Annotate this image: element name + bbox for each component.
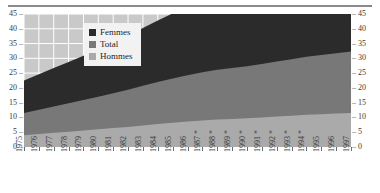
legend-label: Total xyxy=(100,40,118,49)
y-tick-left-40: 40 – xyxy=(9,25,23,33)
y-tick-right-30: – 30 xyxy=(352,54,366,62)
y-tick-right-45: – 45 xyxy=(352,10,366,18)
x-tick-label: 1980 xyxy=(89,136,98,152)
y-tick-left-30: 30 – xyxy=(9,54,23,62)
legend-swatch-icon xyxy=(89,29,96,36)
x-tick-label: 1993 * xyxy=(283,130,292,152)
x-tick-label: 1991 * xyxy=(253,130,262,152)
y-tick-right-5: – 5 xyxy=(352,128,362,136)
legend-label: Femmes xyxy=(100,28,131,37)
x-tick-label: 1997 xyxy=(342,136,351,152)
x-axis: 1975197619771978197919801981198219831984… xyxy=(24,147,351,193)
x-tickmark xyxy=(306,147,307,151)
x-tick-label: 1981 xyxy=(104,136,113,152)
x-tickmark xyxy=(336,147,337,151)
x-tickmark xyxy=(247,147,248,151)
x-tick-label: 1995 xyxy=(312,136,321,152)
x-tick-label: 1978 xyxy=(60,136,69,152)
x-tickmark xyxy=(202,147,203,151)
x-tick-label: 1984 xyxy=(149,136,158,152)
y-axis-right: – 0– 5– 10– 15– 20– 25– 30– 35– 40– 45 xyxy=(351,14,380,147)
y-tick-left-10: 10 – xyxy=(9,113,23,121)
x-tick-label: 1979 xyxy=(74,136,83,152)
x-tick-label: 1977 xyxy=(45,136,54,152)
x-tick-label: 1983 xyxy=(134,136,143,152)
legend-item-total[interactable]: Total xyxy=(89,39,133,50)
chart-figure: 0 –5 –10 –15 –20 –25 –30 –35 –40 –45 – –… xyxy=(0,0,380,193)
x-tickmark xyxy=(83,147,84,151)
plot-area xyxy=(24,14,351,147)
x-tickmark xyxy=(217,147,218,151)
top-divider-rule xyxy=(8,5,372,7)
stacked-area-svg xyxy=(24,14,351,147)
legend-item-hommes[interactable]: Hommes xyxy=(89,51,133,62)
y-tick-right-35: – 35 xyxy=(352,40,366,48)
x-tickmark xyxy=(128,147,129,151)
x-tick-label: 1982 xyxy=(119,136,128,152)
x-tick-label: 1996 xyxy=(327,136,336,152)
x-tickmark xyxy=(351,147,352,151)
y-tick-left-35: 35 – xyxy=(9,40,23,48)
x-tick-label: 1975 xyxy=(15,136,24,152)
x-tickmark xyxy=(98,147,99,151)
x-tick-label: 1987 * xyxy=(193,130,202,152)
x-tickmark xyxy=(39,147,40,151)
y-tick-left-25: 25 – xyxy=(9,69,23,77)
y-tick-left-20: 20 – xyxy=(9,84,23,92)
x-tick-label: 1994 * xyxy=(297,130,306,152)
x-tick-label: 1989 * xyxy=(223,130,232,152)
y-tick-left-45: 45 – xyxy=(9,10,23,18)
y-tick-right-10: – 10 xyxy=(352,113,366,121)
x-tickmark xyxy=(24,147,25,151)
y-tick-right-15: – 15 xyxy=(352,99,366,107)
x-tick-label: 1985 xyxy=(164,136,173,152)
legend-label: Hommes xyxy=(100,52,133,61)
y-tick-right-25: – 25 xyxy=(352,69,366,77)
y-tick-right-40: – 40 xyxy=(352,25,366,33)
y-tick-left-15: 15 – xyxy=(9,99,23,107)
y-axis-left: 0 –5 –10 –15 –20 –25 –30 –35 –40 –45 – xyxy=(0,14,24,147)
x-tick-label: 1986 xyxy=(179,136,188,152)
x-tickmark xyxy=(232,147,233,151)
x-tick-label: 1992 * xyxy=(268,130,277,152)
x-tick-label: 1976 xyxy=(30,136,39,152)
legend-item-femmes[interactable]: Femmes xyxy=(89,27,133,38)
x-tick-label: 1990 * xyxy=(238,130,247,152)
x-tick-label: 1988 * xyxy=(208,130,217,152)
y-tick-right-20: – 20 xyxy=(352,84,366,92)
y-tick-right-0: – 0 xyxy=(352,143,362,151)
legend-swatch-icon xyxy=(89,53,96,60)
chart-legend: FemmesTotalHommes xyxy=(84,23,141,66)
legend-swatch-icon xyxy=(89,41,96,48)
x-tickmark xyxy=(113,147,114,151)
x-tickmark xyxy=(321,147,322,151)
x-tickmark xyxy=(143,147,144,151)
